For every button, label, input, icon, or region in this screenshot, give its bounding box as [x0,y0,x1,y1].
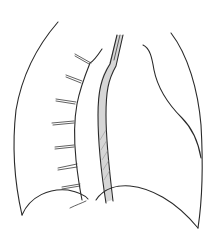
rib-stub-3 [56,99,76,104]
left-lung-base [22,190,88,215]
left-base-stroke [70,201,86,208]
heart-border [143,45,201,158]
rib-stub-5 [55,145,74,149]
left-lung-outline [14,22,58,215]
central-tube [98,35,123,203]
rib-stub-7 [62,184,80,189]
rib-stub-1 [75,54,91,64]
right-lung-outline [171,33,202,228]
rib-stub-4 [52,121,74,125]
rib-stub-6 [58,164,77,170]
rib-stub-2 [66,75,82,83]
right-lung-base [96,186,198,228]
lung-sketch-diagram [0,0,214,235]
